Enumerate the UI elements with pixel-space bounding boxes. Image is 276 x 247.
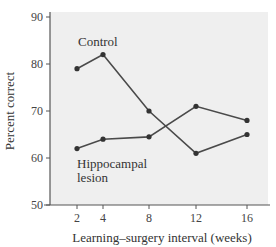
x-tick-label: 12 xyxy=(190,211,202,225)
series-label: Hippocampal xyxy=(77,156,147,171)
data-point xyxy=(74,146,79,151)
y-tick-label: 60 xyxy=(31,151,43,165)
data-point xyxy=(193,104,198,109)
x-tick-label: 16 xyxy=(241,211,253,225)
data-point xyxy=(100,137,105,142)
x-tick-label: 2 xyxy=(74,211,80,225)
data-point xyxy=(146,108,151,113)
data-point xyxy=(74,66,79,71)
y-tick-label: 80 xyxy=(31,57,43,71)
series-label: lesion xyxy=(77,170,109,185)
data-point xyxy=(244,118,249,123)
y-tick-label: 90 xyxy=(31,10,43,24)
data-point xyxy=(244,132,249,137)
series-label: Control xyxy=(78,34,118,49)
line-chart: 50607080902481216 ControlHippocampallesi… xyxy=(0,0,276,247)
data-point xyxy=(146,134,151,139)
y-axis-title: Percent correct xyxy=(2,71,17,150)
x-tick-label: 4 xyxy=(100,211,106,225)
data-point xyxy=(100,52,105,57)
x-axis-title: Learning–surgery interval (weeks) xyxy=(72,230,252,245)
y-tick-label: 50 xyxy=(31,198,43,212)
data-point xyxy=(193,151,198,156)
x-tick-label: 8 xyxy=(146,211,152,225)
y-tick-label: 70 xyxy=(31,104,43,118)
